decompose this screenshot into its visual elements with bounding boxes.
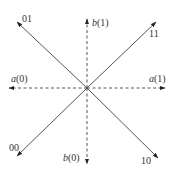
label-11: 11: [149, 28, 159, 39]
arrow-00: [17, 88, 87, 156]
arrow-10: [87, 88, 158, 158]
signal-constellation-diagram: 01110010a(0)a(1)b(1)b(0): [0, 0, 175, 170]
arrow-11: [87, 22, 156, 88]
label-a1: a(1): [149, 73, 166, 85]
label-00: 00: [9, 142, 19, 153]
label-10: 10: [141, 155, 151, 166]
label-01: 01: [22, 13, 32, 24]
label-b1: b(1): [92, 17, 109, 29]
label-b0: b(0): [63, 152, 80, 164]
label-a0: a(0): [11, 73, 28, 85]
